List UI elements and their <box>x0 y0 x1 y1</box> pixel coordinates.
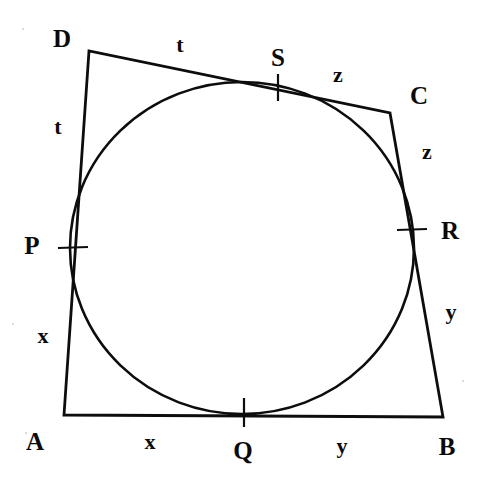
tangent-tick-p <box>58 247 88 248</box>
segment-label-y-right: y <box>446 301 457 323</box>
tangent-tick-r <box>397 229 427 230</box>
tangent-label-p: P <box>24 233 39 258</box>
inscribed-circle <box>70 82 414 414</box>
segment-label-x-left: x <box>38 325 49 347</box>
scan-speck <box>22 28 24 30</box>
tangent-label-r: R <box>441 218 459 243</box>
segment-label-x-bottom: x <box>145 431 156 453</box>
segment-label-t-left: t <box>54 116 61 138</box>
tangent-label-s: S <box>271 45 285 70</box>
segment-label-z-right: z <box>422 141 432 163</box>
scan-speck <box>12 323 14 325</box>
quadrilateral-abcd <box>64 51 443 417</box>
vertex-label-b: B <box>439 434 456 459</box>
segment-label-y-bottom: y <box>337 435 348 457</box>
segment-label-t-top: t <box>176 34 183 56</box>
geometry-figure <box>0 0 486 494</box>
segment-label-z-top: z <box>333 64 343 86</box>
vertex-label-a: A <box>26 429 44 454</box>
vertex-label-c: C <box>410 83 428 108</box>
tangent-label-q: Q <box>233 438 252 463</box>
scan-speck <box>462 380 464 382</box>
vertex-label-d: D <box>53 26 71 51</box>
diagram-canvas: D C A B P Q R S t t z z x y x y <box>0 0 486 494</box>
